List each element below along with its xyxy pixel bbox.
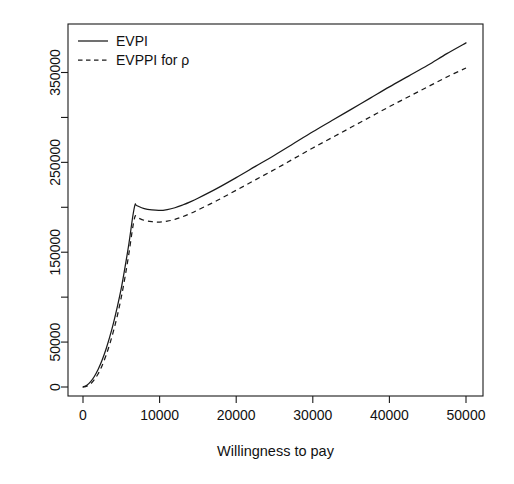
plot-canvas: 0100002000030000400005000005000015000025… <box>0 0 514 484</box>
series-line-1 <box>83 43 466 387</box>
y-axis-tick-label: 50000 <box>47 322 63 361</box>
y-axis: 050000150000250000350000 <box>47 49 68 391</box>
y-axis-tick-label: 350000 <box>47 49 63 96</box>
x-axis-tick-label: 30000 <box>293 407 332 423</box>
legend-label: EVPI <box>116 33 148 49</box>
x-axis-tick-label: 10000 <box>140 407 179 423</box>
x-axis: 01000020000300004000050000 <box>79 396 486 423</box>
legend-label: EVPPI for ρ <box>116 52 189 68</box>
x-axis-tick-label: 40000 <box>370 407 409 423</box>
y-axis-tick-label: 250000 <box>47 139 63 186</box>
chart-figure: 0100002000030000400005000005000015000025… <box>0 0 514 484</box>
y-axis-tick-label: 0 <box>47 383 63 391</box>
x-axis-title: Willingness to pay <box>217 443 335 459</box>
x-axis-tick-label: 0 <box>79 407 87 423</box>
plot-box-frame <box>68 24 483 396</box>
series-line-2 <box>83 68 466 387</box>
x-axis-tick-label: 50000 <box>447 407 486 423</box>
legend: EVPIEVPPI for ρ <box>78 33 189 68</box>
x-axis-tick-label: 20000 <box>217 407 256 423</box>
y-axis-tick-label: 150000 <box>47 229 63 276</box>
